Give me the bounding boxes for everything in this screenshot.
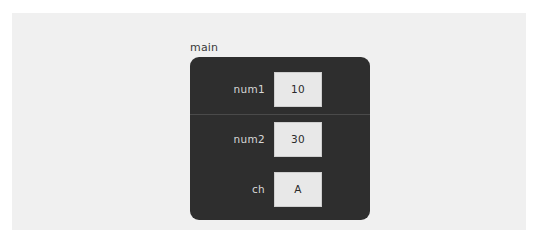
variable-panel: num1 10 num2 30 ch A	[190, 57, 370, 220]
panel-caption: main	[190, 41, 218, 54]
variable-value-box[interactable]: 10	[274, 72, 322, 107]
variable-name-label: ch	[195, 183, 265, 196]
variable-value-text: 30	[291, 133, 305, 146]
variable-name-label: num1	[195, 83, 265, 96]
content-card: main num1 10 num2 30 ch A	[12, 13, 526, 230]
variable-row: ch A	[190, 165, 370, 215]
variable-row: num2 30	[190, 115, 370, 165]
variable-value-text: A	[294, 183, 301, 196]
variable-value-box[interactable]: 30	[274, 122, 322, 157]
variable-value-text: 10	[291, 83, 305, 96]
variable-row: num1 10	[190, 65, 370, 115]
variable-name-label: num2	[195, 133, 265, 146]
screenshot-root: main num1 10 num2 30 ch A	[0, 0, 539, 246]
variable-value-box[interactable]: A	[274, 172, 322, 207]
